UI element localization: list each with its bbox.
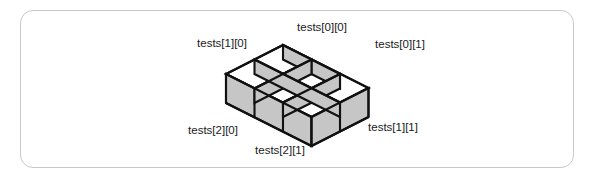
array-diagram: tests[0][0] tests[1][0] tests[0][1] test…: [0, 0, 596, 179]
label-tests-2-0: tests[2][0]: [188, 124, 238, 136]
label-tests-1-1: tests[1][1]: [368, 121, 418, 133]
label-tests-0-0: tests[0][0]: [297, 21, 347, 33]
label-tests-1-0: tests[1][0]: [197, 37, 247, 49]
array-solid: [226, 45, 369, 146]
label-tests-0-1: tests[0][1]: [375, 38, 425, 50]
label-tests-2-1: tests[2][1]: [255, 144, 305, 156]
